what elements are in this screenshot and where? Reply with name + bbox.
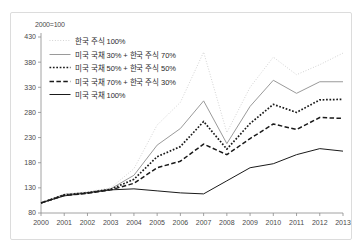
x-tick-label: 2013 bbox=[335, 219, 351, 226]
x-tick-label: 2008 bbox=[219, 219, 235, 226]
x-tick-label: 2001 bbox=[56, 219, 72, 226]
y-tick-label: 80 bbox=[28, 209, 36, 216]
y-tick-label: 330 bbox=[24, 84, 36, 91]
legend-item[interactable]: 미국 국채 100% bbox=[49, 89, 176, 100]
legend-swatch-icon bbox=[49, 90, 71, 99]
y-tick-label: 130 bbox=[24, 184, 36, 191]
legend-item[interactable]: 미국 국채 30% + 한국 주식 70% bbox=[49, 49, 176, 60]
x-tick-label: 2009 bbox=[242, 219, 258, 226]
legend-item[interactable]: 미국 국채 70% + 한국 주식 30% bbox=[49, 76, 176, 87]
y-tick-label: 380 bbox=[24, 59, 36, 66]
x-tick-label: 2011 bbox=[289, 219, 304, 226]
x-tick-label: 2004 bbox=[126, 219, 142, 226]
series-line bbox=[41, 117, 343, 202]
legend-swatch-icon bbox=[49, 36, 71, 45]
legend-item-label: 미국 국채 50% + 한국 주식 50% bbox=[75, 62, 176, 73]
x-tick-label: 2003 bbox=[103, 219, 119, 226]
y-tick-label: 430 bbox=[24, 33, 36, 40]
x-tick-label: 2010 bbox=[266, 219, 282, 226]
y-tick-label: 180 bbox=[24, 159, 36, 166]
legend-item-label: 한국 주식 100% bbox=[75, 35, 125, 46]
legend-swatch-icon bbox=[49, 77, 71, 86]
y-tick-label: 230 bbox=[24, 134, 36, 141]
legend-swatch-icon bbox=[49, 63, 71, 72]
x-tick-label: 2012 bbox=[312, 219, 328, 226]
x-tick-label: 2007 bbox=[196, 219, 212, 226]
y-tick-label: 280 bbox=[24, 109, 36, 116]
legend-item[interactable]: 미국 국채 50% + 한국 주식 50% bbox=[49, 62, 176, 73]
x-tick-label: 2000 bbox=[33, 219, 49, 226]
legend-item-label: 미국 국채 70% + 한국 주식 30% bbox=[75, 76, 176, 87]
legend-item-label: 미국 국채 30% + 한국 주식 70% bbox=[75, 49, 176, 60]
x-tick-label: 2006 bbox=[173, 219, 189, 226]
legend-item-label: 미국 국채 100% bbox=[75, 89, 125, 100]
legend-swatch-icon bbox=[49, 50, 71, 59]
chart-figure: 2000=100 8013018023028033038043020002001… bbox=[10, 12, 352, 240]
x-tick-label: 2002 bbox=[80, 219, 96, 226]
legend-item[interactable]: 한국 주식 100% bbox=[49, 35, 176, 46]
chart-legend: 한국 주식 100%미국 국채 30% + 한국 주식 70%미국 국채 50%… bbox=[49, 35, 176, 100]
series-line bbox=[41, 149, 343, 203]
x-tick-label: 2005 bbox=[149, 219, 165, 226]
